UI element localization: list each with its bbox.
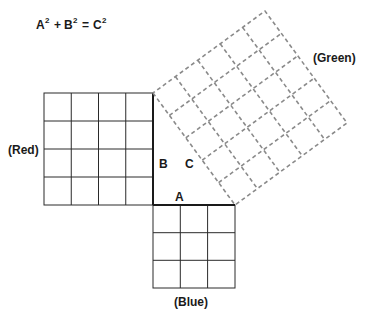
red-square xyxy=(44,93,153,205)
equation-a: A xyxy=(36,18,45,32)
pythagorean-diagram: A 2 + B 2 = C 2 xyxy=(0,0,365,318)
side-b-label: B xyxy=(159,157,168,171)
equation-b-exponent: 2 xyxy=(73,16,78,25)
equation-b: B xyxy=(64,18,73,32)
equation-equals: = xyxy=(82,18,89,32)
equation: A 2 + B 2 = C 2 xyxy=(36,16,107,32)
green-square xyxy=(153,11,347,205)
equation-c-exponent: 2 xyxy=(102,16,107,25)
triangle-legs xyxy=(153,93,235,205)
equation-c: C xyxy=(93,18,102,32)
equation-a-exponent: 2 xyxy=(45,16,50,25)
side-c-label: C xyxy=(185,157,194,171)
green-square-label: (Green) xyxy=(313,51,356,65)
equation-plus: + xyxy=(54,18,61,32)
blue-square xyxy=(153,205,235,288)
blue-square-label: (Blue) xyxy=(174,295,208,309)
side-a-label: A xyxy=(175,190,184,204)
red-square-label: (Red) xyxy=(8,143,39,157)
